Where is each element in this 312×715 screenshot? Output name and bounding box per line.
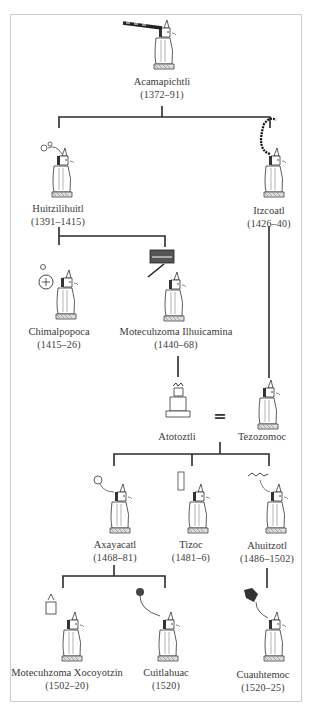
figure-cuitlahuac: [136, 588, 180, 661]
person-name: Atotoztli: [158, 431, 195, 444]
figure-axayacatl: [94, 476, 132, 533]
person-itzcoatl: Itzcoatl (1426–40): [247, 205, 290, 230]
figure-ahuitzotl: [248, 473, 288, 533]
person-name: Chimalpopoca: [28, 326, 89, 339]
person-dates: (1486–1502): [240, 553, 294, 566]
person-name: Tizoc: [172, 539, 210, 552]
connector-acamapichtli: [59, 106, 270, 128]
person-tezozomoc: Tezozomoc: [238, 431, 286, 444]
person-name: Cuitlahuac: [143, 667, 189, 680]
person-motecuhzoma-ilhuicamina: Motecuhzoma Ilhuicamina (1440–68): [120, 326, 233, 351]
person-chimalpopoca: Chimalpopoca (1415–26): [28, 326, 89, 351]
person-dates: (1391–1415): [31, 216, 85, 229]
figure-atotoztli: [166, 383, 190, 417]
connector-huitzilihuitl: [59, 227, 165, 247]
person-name: Ahuitzotl: [240, 540, 294, 553]
person-atotoztli: Atotoztli: [158, 431, 195, 444]
person-name: Motecuhzoma Xocoyotzin: [11, 667, 123, 680]
connector-lines: [0, 0, 312, 715]
person-axayacatl: Axayacatl (1468–81): [93, 539, 136, 564]
person-huitzilihuitl: Huitzilihuitl (1391–1415): [31, 203, 85, 228]
person-name: Axayacatl: [93, 539, 136, 552]
person-dates: (1520): [143, 680, 189, 693]
person-dates: (1440–68): [120, 339, 233, 352]
person-name: Cuauhtemoc: [236, 669, 289, 682]
figure-huitzilihuitl: [41, 142, 74, 197]
person-name: Acamapichtli: [134, 76, 191, 89]
figure-acamapichtli: [123, 20, 176, 69]
person-dates: (1502–20): [11, 680, 123, 693]
person-cuauhtemoc: Cuauhtemoc (1520–25): [236, 669, 289, 694]
figure-itzcoatl: [261, 119, 286, 197]
person-name: Motecuhzoma Ilhuicamina: [120, 326, 233, 339]
person-cuitlahuac: Cuitlahuac (1520): [143, 667, 189, 692]
person-dates: (1520–25): [236, 682, 289, 695]
person-dates: (1426–40): [247, 218, 290, 231]
figure-chimalpopoca: [39, 265, 78, 320]
person-name: Huitzilihuitl: [31, 203, 85, 216]
figure-motecuhzoma1: [148, 250, 186, 321]
connector-couple: [114, 442, 269, 466]
person-ahuitzotl: Ahuitzotl (1486–1502): [240, 540, 294, 565]
connector-axayacatl: [63, 565, 165, 588]
person-acamapichtli: Acamapichtli (1372–91): [134, 76, 191, 101]
person-dates: (1468–81): [93, 552, 136, 565]
figure-motecuhzoma2: [46, 594, 84, 661]
figure-tezozomoc: [258, 380, 280, 429]
person-tizoc: Tizoc (1481–6): [172, 539, 210, 564]
figure-cuauhtemoc: [244, 588, 286, 661]
person-name: Itzcoatl: [247, 205, 290, 218]
person-name: Tezozomoc: [238, 431, 286, 444]
marriage-symbol: =: [213, 406, 226, 425]
person-dates: (1481–6): [172, 552, 210, 565]
person-motecuhzoma-xocoyotzin: Motecuhzoma Xocoyotzin (1502–20): [11, 667, 123, 692]
figure-tizoc: [178, 472, 210, 533]
person-dates: (1372–91): [134, 89, 191, 102]
person-dates: (1415–26): [28, 339, 89, 352]
